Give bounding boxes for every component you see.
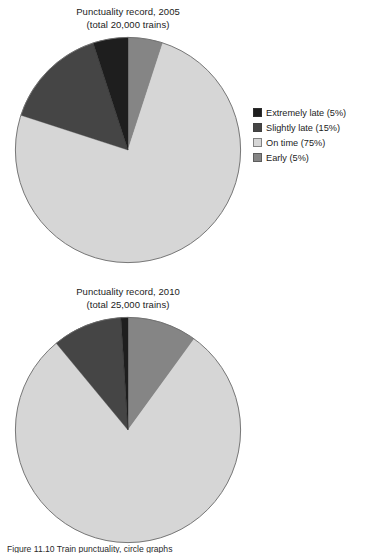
legend-2005: Extremely late (5%) Slightly late (15%) … [253, 106, 368, 166]
figure-caption: Figure 11.10 Train punctuality, circle g… [7, 544, 337, 553]
chart-punctuality-2010: Punctuality record, 2010 (total 25,000 t… [0, 280, 368, 553]
chart-punctuality-2005: Punctuality record, 2005 (total 20,000 t… [0, 0, 368, 272]
pie-slices-2010 [15, 317, 240, 542]
legend-label-slightly-late: Slightly late (15%) [266, 123, 340, 133]
legend-swatch-on-time [253, 138, 262, 147]
legend-label-on-time: On time (75%) [266, 138, 325, 148]
chart-title-2005: Punctuality record, 2005 (total 20,000 t… [0, 6, 256, 31]
pie-chart-2005 [14, 36, 242, 264]
legend-label-extremely-late: Extremely late (5%) [266, 108, 346, 118]
chart-title-line2: (total 25,000 trains) [0, 299, 256, 312]
legend-label-early: Early (5%) [266, 153, 309, 163]
pie-svg-2010 [14, 316, 242, 544]
pie-slices-2005 [15, 37, 240, 262]
pie-chart-2010 [14, 316, 242, 544]
chart-title-line1: Punctuality record, 2010 [0, 286, 256, 299]
legend-item-on-time[interactable]: On time (75%) [253, 136, 368, 150]
legend-item-extremely-late[interactable]: Extremely late (5%) [253, 106, 368, 120]
legend-item-slightly-late[interactable]: Slightly late (15%) [253, 121, 368, 135]
pie-svg-2005 [14, 36, 242, 264]
chart-title-line1: Punctuality record, 2005 [0, 6, 256, 19]
chart-title-line2: (total 20,000 trains) [0, 19, 256, 32]
legend-swatch-extremely-late [253, 108, 262, 117]
figure-punctuality-circle-graphs: Punctuality record, 2005 (total 20,000 t… [0, 0, 368, 553]
chart-title-2010: Punctuality record, 2010 (total 25,000 t… [0, 286, 256, 311]
legend-item-early[interactable]: Early (5%) [253, 151, 368, 165]
legend-swatch-slightly-late [253, 123, 262, 132]
legend-swatch-early [253, 153, 262, 162]
